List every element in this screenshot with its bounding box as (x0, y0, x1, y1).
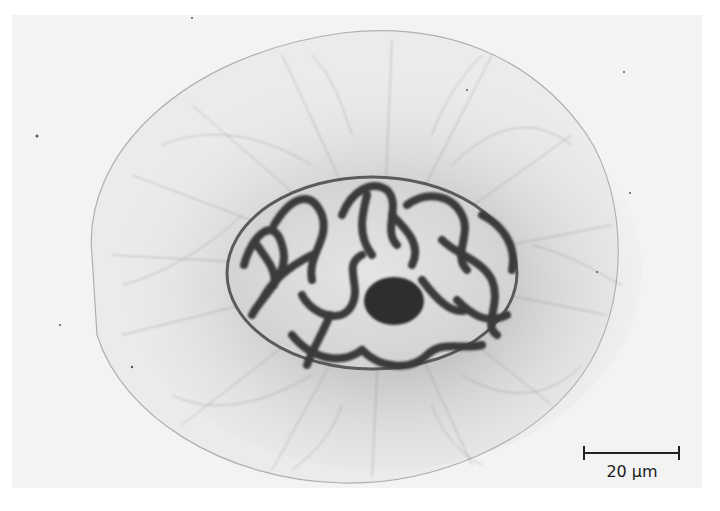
nucleolus (364, 277, 424, 325)
micrograph-image (12, 15, 702, 488)
micrograph-plate (12, 15, 702, 488)
scale-bar-tick-left (583, 446, 585, 460)
scale-bar-tick-right (678, 446, 680, 460)
scale-bar-label: 20 µm (586, 462, 678, 481)
scale-bar (583, 446, 680, 460)
scale-bar-line (583, 452, 680, 454)
